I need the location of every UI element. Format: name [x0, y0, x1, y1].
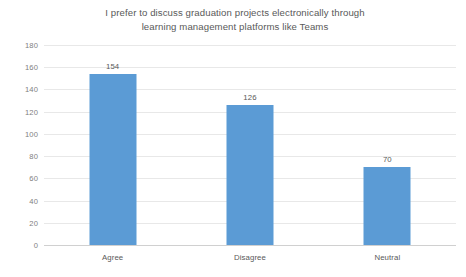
- chart-title-line-2: learning management platforms like Teams: [40, 20, 430, 34]
- y-axis-tick-label: 120: [0, 107, 38, 116]
- y-axis-tick-label: 160: [0, 63, 38, 72]
- bar-slot: 70: [319, 45, 456, 245]
- y-axis-tick-label: 60: [0, 174, 38, 183]
- x-axis-category-label: Agree: [102, 253, 123, 262]
- bar-value-label: 70: [383, 155, 392, 164]
- y-axis-tick-label: 140: [0, 85, 38, 94]
- y-axis-tick-label: 80: [0, 152, 38, 161]
- plot-area: 15412670: [44, 45, 456, 245]
- y-axis-tick-label: 20: [0, 218, 38, 227]
- bar-value-label: 154: [106, 62, 119, 71]
- bar[interactable]: [364, 167, 411, 245]
- chart-title-line-1: I prefer to discuss graduation projects …: [40, 6, 430, 20]
- gridline: [44, 245, 456, 246]
- bar-slot: 154: [44, 45, 181, 245]
- y-axis-tick-label: 100: [0, 129, 38, 138]
- bar-value-label: 126: [243, 93, 256, 102]
- y-axis-tick-label: 40: [0, 196, 38, 205]
- y-axis-tick-label: 0: [0, 241, 38, 250]
- bar-slot: 126: [181, 45, 318, 245]
- bar[interactable]: [89, 74, 136, 245]
- chart-title: I prefer to discuss graduation projects …: [40, 6, 430, 33]
- bar-chart: I prefer to discuss graduation projects …: [0, 0, 466, 277]
- x-axis-category-label: Neutral: [374, 253, 400, 262]
- x-axis-category-label: Disagree: [234, 253, 266, 262]
- bar[interactable]: [226, 105, 273, 245]
- y-axis-tick-label: 180: [0, 41, 38, 50]
